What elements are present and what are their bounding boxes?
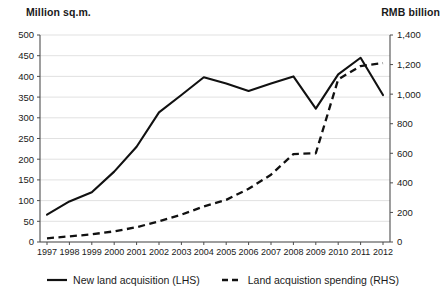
- svg-text:2003: 2003: [171, 247, 191, 257]
- legend-label-new-land-acquisition: New land acquisition (LHS): [73, 274, 200, 286]
- legend-swatch-solid-line: [47, 275, 67, 285]
- legend-item-land-acquisition-spending: Land acquistion spending (RHS): [222, 274, 399, 286]
- svg-text:1,400: 1,400: [397, 29, 421, 40]
- legend-item-new-land-acquisition: New land acquisition (LHS): [47, 274, 200, 286]
- svg-text:250: 250: [18, 133, 34, 144]
- svg-text:2008: 2008: [283, 247, 303, 257]
- svg-text:600: 600: [397, 148, 413, 159]
- svg-text:400: 400: [397, 177, 413, 188]
- legend-swatch-dashed-line: [222, 275, 242, 285]
- data-series: [47, 58, 383, 239]
- x-axis-ticks: 1997199819992000200120022003200420052006…: [37, 242, 393, 257]
- svg-text:50: 50: [23, 216, 34, 227]
- svg-text:2012: 2012: [373, 247, 393, 257]
- svg-text:100: 100: [18, 195, 34, 206]
- svg-text:2011: 2011: [351, 247, 370, 257]
- svg-text:2009: 2009: [306, 247, 326, 257]
- svg-text:350: 350: [18, 92, 34, 103]
- chart-legend: New land acquisition (LHS) Land acquisti…: [0, 274, 446, 286]
- svg-text:1,200: 1,200: [397, 59, 421, 70]
- svg-text:2005: 2005: [216, 247, 236, 257]
- left-axis-ticks: 050100150200250300350400450500: [18, 29, 40, 247]
- svg-text:2004: 2004: [194, 247, 214, 257]
- svg-text:2000: 2000: [104, 247, 124, 257]
- svg-text:2010: 2010: [328, 247, 348, 257]
- svg-text:0: 0: [397, 236, 402, 247]
- svg-text:450: 450: [18, 50, 34, 61]
- svg-text:150: 150: [18, 174, 34, 185]
- svg-text:2007: 2007: [261, 247, 281, 257]
- svg-text:2006: 2006: [239, 247, 259, 257]
- svg-text:1997: 1997: [37, 247, 57, 257]
- svg-text:0: 0: [29, 236, 34, 247]
- svg-text:1,000: 1,000: [397, 89, 421, 100]
- svg-text:300: 300: [18, 112, 34, 123]
- chart-container: Million sq.m. RMB billion 05010015020025…: [0, 0, 446, 294]
- svg-text:400: 400: [18, 71, 34, 82]
- right-axis-ticks: 02004006008001,0001,2001,400: [390, 29, 421, 247]
- svg-text:2001: 2001: [127, 247, 147, 257]
- svg-text:500: 500: [18, 29, 34, 40]
- plot-area: 050100150200250300350400450500 020040060…: [0, 0, 446, 294]
- svg-text:200: 200: [18, 154, 34, 165]
- svg-text:1999: 1999: [82, 247, 102, 257]
- gridlines: [40, 35, 390, 242]
- svg-text:800: 800: [397, 118, 413, 129]
- svg-text:1998: 1998: [59, 247, 79, 257]
- svg-text:2002: 2002: [149, 247, 169, 257]
- legend-label-land-acquisition-spending: Land acquistion spending (RHS): [248, 274, 399, 286]
- svg-text:200: 200: [397, 207, 413, 218]
